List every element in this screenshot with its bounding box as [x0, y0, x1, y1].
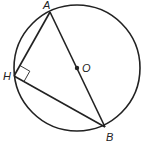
label-o: O [82, 62, 91, 74]
label-a: A [42, 0, 50, 11]
center-point-o [75, 66, 79, 70]
label-h: H [3, 70, 11, 82]
geometry-diagram: A H O B [0, 0, 142, 142]
label-b: B [106, 131, 113, 142]
right-angle-marker [20, 66, 30, 82]
segment-hb [14, 76, 105, 127]
